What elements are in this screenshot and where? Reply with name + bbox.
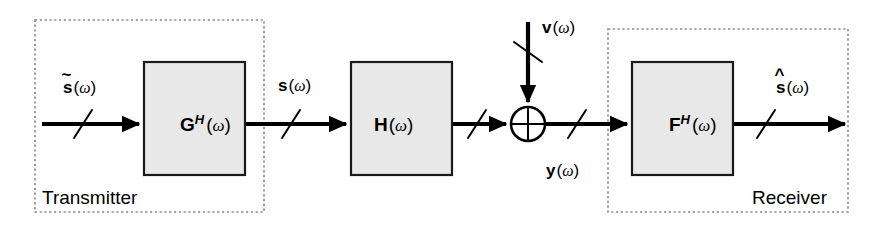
- signal-label-s: s(ω): [278, 76, 311, 95]
- signal-s-paren-close: ): [305, 76, 311, 95]
- block-equalizer-superscript: H: [681, 112, 691, 127]
- block-equalizer-label: FH(ω): [669, 112, 717, 135]
- block-channel-arg: ω: [395, 116, 407, 135]
- signal-flow-diagram: GH(ω) H(ω) FH(ω) s(ω) ~ s(ω) v(ω) y(ω): [0, 0, 882, 237]
- block-channel-base: H: [374, 114, 388, 135]
- block-equalizer-paren-close: ): [710, 114, 716, 135]
- signal-s-arg: ω: [294, 77, 305, 94]
- signal-y-base: y: [546, 161, 556, 180]
- signal-label-v: v(ω): [542, 18, 575, 37]
- block-equalizer-base: F: [669, 114, 681, 135]
- block-precoder-label: GH(ω): [180, 112, 231, 135]
- block-channel-paren-close: ): [407, 114, 413, 135]
- transmitter-label: Transmitter: [42, 187, 138, 208]
- block-equalizer-arg: ω: [698, 116, 710, 135]
- signal-v-base: v: [542, 18, 552, 37]
- signal-y-arg: ω: [562, 162, 573, 179]
- signal-s-hat-paren-close: ): [803, 78, 809, 97]
- block-precoder-paren-close: ): [225, 114, 231, 135]
- receiver-label: Receiver: [752, 187, 828, 208]
- block-precoder-arg: ω: [213, 116, 225, 135]
- signal-s-hat-accent: ^: [775, 65, 785, 84]
- block-channel-label: H(ω): [374, 114, 413, 135]
- block-precoder-superscript: H: [195, 112, 205, 127]
- signal-s-tilde-arg: ω: [79, 79, 90, 96]
- signal-y-paren-close: ): [573, 161, 579, 180]
- block-precoder-base: G: [180, 114, 195, 135]
- signal-label-y: y(ω): [546, 161, 579, 180]
- signal-v-paren-close: ): [569, 18, 575, 37]
- signal-v-arg: ω: [558, 19, 569, 36]
- block-diagram-canvas: GH(ω) H(ω) FH(ω) s(ω) ~ s(ω) v(ω) y(ω): [0, 0, 882, 237]
- signal-s-base: s: [278, 76, 287, 95]
- signal-s-tilde-accent: ~: [62, 65, 72, 84]
- signal-s-tilde-paren-close: ): [90, 78, 96, 97]
- signal-s-hat-arg: ω: [792, 79, 803, 96]
